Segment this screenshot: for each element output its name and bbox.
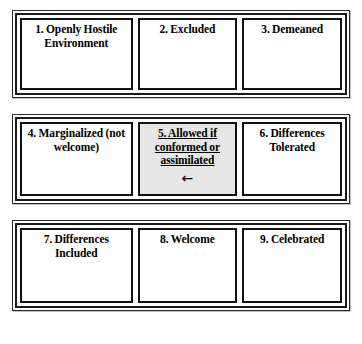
cell-9[interactable]: 9. Celebrated	[242, 228, 342, 303]
inclusion-continuum-diagram: 1. Openly Hostile Environment 2. Exclude…	[0, 0, 362, 344]
cell-7-label: 7. Differences Included	[24, 233, 129, 260]
cell-1-label: 1. Openly Hostile Environment	[24, 23, 129, 50]
cell-5-highlighted[interactable]: 5. Allowed if conformed or assimilated ←	[138, 122, 238, 196]
diagram-row-2: 4. Marginalized (not welcome) 5. Allowed…	[12, 114, 350, 204]
cell-4[interactable]: 4. Marginalized (not welcome)	[20, 122, 133, 196]
cell-2[interactable]: 2. Excluded	[138, 18, 238, 90]
cell-6[interactable]: 6. Differences Tolerated	[242, 122, 342, 196]
cell-2-label: 2. Excluded	[158, 23, 216, 37]
cell-3-label: 3. Demeaned	[260, 23, 324, 37]
diagram-row-3: 7. Differences Included 8. Welcome 9. Ce…	[12, 220, 350, 311]
cell-5-label: 5. Allowed if conformed or assimilated	[142, 127, 234, 168]
diagram-row-1-inner: 1. Openly Hostile Environment 2. Exclude…	[15, 13, 347, 95]
diagram-row-3-inner: 7. Differences Included 8. Welcome 9. Ce…	[15, 223, 347, 308]
cell-7[interactable]: 7. Differences Included	[20, 228, 133, 303]
cell-9-label: 9. Celebrated	[259, 233, 325, 247]
left-arrow-icon: ←	[182, 171, 194, 185]
diagram-row-2-inner: 4. Marginalized (not welcome) 5. Allowed…	[15, 117, 347, 201]
cell-4-label: 4. Marginalized (not welcome)	[24, 127, 129, 154]
cell-8[interactable]: 8. Welcome	[138, 228, 238, 303]
cell-8-label: 8. Welcome	[159, 233, 216, 247]
cell-3[interactable]: 3. Demeaned	[242, 18, 342, 90]
cell-1[interactable]: 1. Openly Hostile Environment	[20, 18, 133, 90]
cell-6-label: 6. Differences Tolerated	[246, 127, 338, 154]
diagram-row-1: 1. Openly Hostile Environment 2. Exclude…	[12, 10, 350, 98]
